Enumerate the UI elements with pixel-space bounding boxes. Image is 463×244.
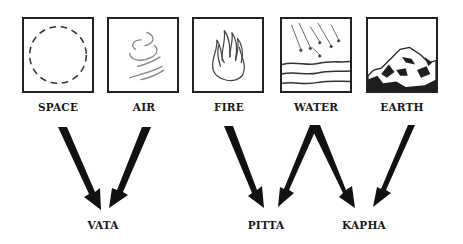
arrow-fire-to-pitta bbox=[224, 126, 264, 208]
arrows-layer bbox=[0, 0, 463, 244]
dosha-label-pitta: PITTA bbox=[221, 219, 311, 231]
arrow-water-to-kapha bbox=[310, 125, 355, 208]
arrow-earth-to-kapha bbox=[373, 125, 415, 207]
arrow-water-to-pitta bbox=[278, 125, 318, 207]
dosha-label-kapha: KAPHA bbox=[319, 219, 409, 231]
dosha-label-vata: VATA bbox=[58, 219, 148, 231]
arrow-space-to-vata bbox=[58, 127, 101, 210]
arrow-air-to-vata bbox=[109, 127, 151, 208]
